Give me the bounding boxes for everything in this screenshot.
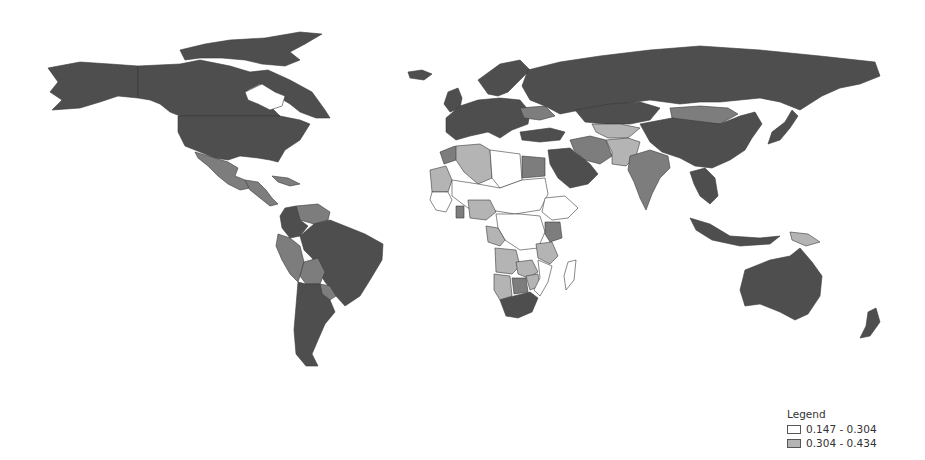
region-ecuador-peru[interactable]: Ecuador/Peru xyxy=(276,234,304,282)
region-botswana[interactable]: Botswana xyxy=(512,278,528,294)
legend-swatch xyxy=(787,425,801,434)
region-west-africa-coast[interactable]: West Africa coast xyxy=(430,192,452,212)
region-southeast-asia[interactable]: Southeast Asia xyxy=(690,168,718,204)
region-canada[interactable]: Canada xyxy=(138,60,330,118)
region-india[interactable]: India xyxy=(628,150,670,210)
region-cuba[interactable]: Cuba xyxy=(272,176,300,186)
region-algeria[interactable]: Algeria xyxy=(456,144,492,184)
region-indonesia[interactable]: Indonesia xyxy=(690,218,780,246)
region-papua-new-guinea[interactable]: Papua New Guinea xyxy=(790,232,820,246)
world-choropleth-map: Alaska/USA Canada Canadian Arctic Island… xyxy=(0,0,925,460)
legend-entry: 0.147 - 0.304 xyxy=(787,422,877,436)
region-central-asia[interactable]: Central Asia xyxy=(592,124,640,138)
region-scandinavia[interactable]: Scandinavia xyxy=(478,60,530,96)
region-ghana[interactable]: Ghana xyxy=(456,206,464,218)
region-mauritania[interactable]: Mauritania xyxy=(430,166,452,192)
region-central-america[interactable]: Central America xyxy=(245,180,278,206)
region-egypt[interactable]: Egypt xyxy=(522,156,545,178)
region-turkey[interactable]: Turkey xyxy=(520,128,565,142)
region-australia[interactable]: Australia xyxy=(740,248,822,320)
region-angola[interactable]: Angola xyxy=(495,248,520,274)
region-nigeria[interactable]: Nigeria xyxy=(468,200,496,220)
region-alaska[interactable]: Alaska/USA xyxy=(48,62,138,110)
region-ethiopia-somalia[interactable]: Ethiopia/Somalia xyxy=(542,196,578,220)
region-russia[interactable]: Russia xyxy=(522,46,880,114)
legend-swatch xyxy=(787,439,801,448)
region-kenya[interactable]: Kenya xyxy=(545,222,562,242)
map-legend: Legend 0.147 - 0.304 0.304 - 0.434 xyxy=(787,408,877,450)
legend-entry: 0.304 - 0.434 xyxy=(787,436,877,450)
region-japan[interactable]: Japan xyxy=(768,110,798,144)
region-iceland[interactable]: Iceland xyxy=(408,70,432,80)
region-namibia[interactable]: Namibia xyxy=(494,274,512,300)
legend-label: 0.147 - 0.304 xyxy=(806,423,877,435)
region-madagascar[interactable]: Madagascar xyxy=(564,260,576,290)
legend-label: 0.304 - 0.434 xyxy=(806,437,877,449)
region-new-zealand[interactable]: New Zealand xyxy=(860,308,880,338)
legend-title: Legend xyxy=(787,408,877,420)
